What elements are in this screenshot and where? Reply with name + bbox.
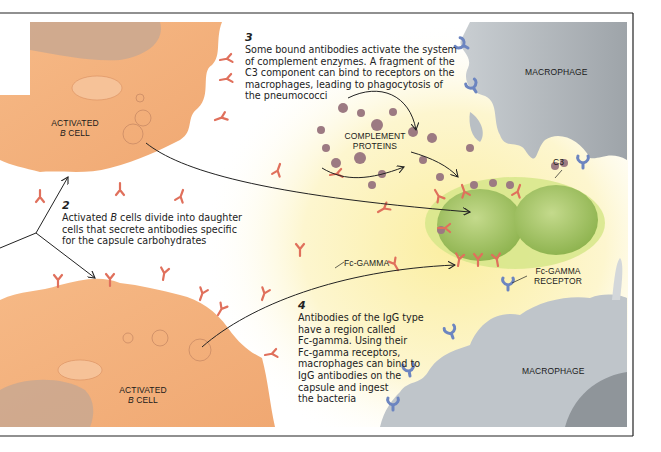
arrow-to-top-b-cell [0, 177, 68, 248]
b-cell-bottom-organelle [58, 360, 102, 380]
pneumococcus-bacterium [425, 177, 605, 269]
label-fc-gamma-receptor: Fc-GAMMA RECEPTOR [528, 266, 588, 286]
step-2-caption: 2 Activated B cells divide into daughter… [62, 200, 292, 247]
step-4-caption: 4 Antibodies of the IgG type have a regi… [298, 300, 448, 405]
label-activated-b-cell-top: ACTIVATED B CELL [40, 118, 110, 138]
label-complement-proteins: COMPLEMENT PROTEINS [340, 131, 410, 151]
label-activated-b-cell-bottom: ACTIVATED B CELL [108, 385, 178, 405]
label-macrophage-bottom: MACROPHAGE [522, 366, 584, 376]
b-cell-top-organelle [72, 76, 122, 100]
label-fc-gamma: Fc-GAMMA [344, 258, 389, 268]
step-3-caption: 3 Some bound antibodies activate the sys… [245, 32, 480, 102]
immune-response-diagram: ACTIVATED B CELL ACTIVATED B CELL MACROP… [0, 0, 661, 452]
label-c3: C3 [553, 157, 564, 167]
label-macrophage-top: MACROPHAGE [525, 67, 587, 77]
